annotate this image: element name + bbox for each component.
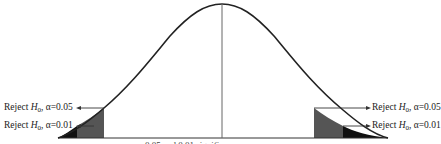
normal-curve: [58, 4, 388, 138]
arrowhead-icon: [366, 124, 371, 128]
right-label-001: Reject H0, α=0.01: [372, 120, 441, 134]
caption-cut-off: 0.05 and 0.01 significance: [145, 140, 240, 144]
arrowhead-icon: [366, 106, 371, 110]
left-label-001: Reject H0, α=0.01: [4, 120, 73, 134]
arrowhead-icon: [76, 106, 81, 110]
left-label-005: Reject H0, α=0.05: [4, 102, 73, 116]
right-rejection-region-005: [314, 108, 343, 138]
right-label-005: Reject H0, α=0.05: [372, 102, 441, 116]
